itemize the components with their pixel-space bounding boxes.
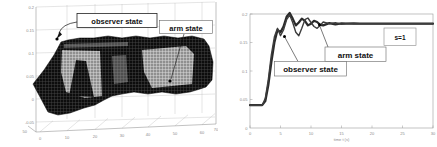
mesh-mid-patch-center	[112, 55, 128, 84]
x-tick: 20	[370, 131, 375, 136]
x-tick: 30	[120, 133, 125, 138]
legend-label: s=1	[394, 34, 405, 41]
x-tick: 30	[431, 131, 436, 136]
y-tick: 0.1	[242, 69, 248, 74]
arm-anchor-dot	[318, 23, 321, 26]
x-tick: 60	[200, 130, 205, 135]
z-tick: -0.05	[25, 120, 35, 125]
y-tick: 0	[245, 126, 248, 131]
right-line-plot: arm state observer state s=1 0.2 0.15 0.…	[218, 0, 437, 147]
right-arm-callout-label: arm state	[338, 51, 374, 60]
z-tick: 0.05	[26, 74, 35, 79]
y-tick: 0.15	[240, 40, 249, 45]
right-y-tick-labels: 0.2 0.15 0.1 0.05 0	[240, 12, 249, 131]
mesh-light-patch-right	[142, 46, 194, 88]
x-tick: 20	[93, 134, 98, 139]
x-tick: 25	[400, 131, 405, 136]
left-z-tick-labels: 0.2 0.15 0.1 0.05 0 -0.05	[25, 5, 35, 125]
x-tick: 40	[146, 132, 151, 137]
right-x-tick-labels: 0 5 10 15 20 25 30 time t (s)	[249, 131, 436, 143]
observer-anchor-dot	[283, 35, 286, 38]
observer-anchor-dot	[55, 37, 58, 40]
left-observer-callout: observer state	[77, 14, 157, 28]
left-arm-callout: arm state	[160, 21, 213, 34]
arm-anchor-dot	[168, 79, 171, 82]
legend-box: s=1	[384, 28, 416, 46]
z-tick: 0.2	[28, 5, 34, 10]
x-tick: 5	[279, 131, 282, 136]
x-tick: 0	[249, 131, 252, 136]
x-tick: 50	[173, 131, 178, 136]
x-tick: 15	[339, 131, 344, 136]
right-annotation-pointers	[283, 23, 328, 61]
right-plot-svg: arm state observer state s=1 0.2 0.15 0.…	[218, 0, 437, 147]
left-arm-callout-label: arm state	[169, 24, 202, 33]
z-tick: 0.1	[28, 51, 34, 56]
mesh-surface	[33, 36, 213, 115]
left-x-tick-labels: 0 10 20 30 40 50 60 70 50	[23, 127, 218, 141]
left-3d-mesh-plot: observer state arm state 0.2 0.15 0.1 0.…	[0, 0, 218, 147]
x-tick: 0	[39, 136, 42, 141]
left-observer-callout-label: observer state	[91, 17, 142, 26]
x-tick: 10	[65, 135, 70, 140]
y-tick: 0.05	[240, 97, 249, 102]
x-tick: 10	[309, 131, 314, 136]
z-tick: 0.15	[26, 28, 35, 33]
depth-tick: 50	[23, 129, 28, 134]
right-observer-callout-label: observer state	[283, 65, 338, 74]
x-axis-label: time t (s)	[334, 137, 350, 142]
figure-canvas: observer state arm state 0.2 0.15 0.1 0.…	[0, 0, 437, 147]
y-tick: 0.2	[242, 12, 248, 17]
z-tick: 0	[32, 97, 35, 102]
left-plot-svg: observer state arm state 0.2 0.15 0.1 0.…	[0, 0, 218, 147]
right-arm-callout: arm state	[325, 47, 386, 62]
right-observer-callout: observer state	[275, 62, 347, 77]
